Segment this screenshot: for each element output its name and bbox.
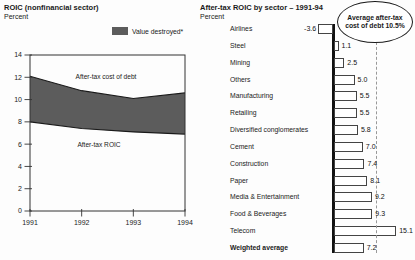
y-tick-label: 4	[18, 163, 22, 170]
y-tick-label: 14	[14, 51, 22, 58]
sector-label: Steel	[230, 42, 246, 49]
y-tick-label: 6	[18, 141, 22, 148]
bar-row: Mining2.5	[200, 58, 415, 69]
sector-bar	[334, 41, 339, 51]
bar-row: Media & Entertainment9.2	[200, 192, 415, 203]
bar-row: Cement7.0	[200, 142, 415, 153]
sector-bar	[334, 108, 357, 118]
x-tick-label: 1993	[126, 219, 142, 226]
y-tick-label: 10	[14, 96, 22, 103]
sector-value-label: 5.5	[360, 109, 370, 116]
sector-bar	[334, 243, 364, 253]
sector-label: Food & Beverages	[230, 210, 286, 217]
sector-bar	[334, 159, 364, 169]
bar-row: Diversified conglomerates5.8	[200, 125, 415, 136]
sector-value-label: 15.1	[399, 227, 413, 234]
sector-bar	[334, 91, 357, 101]
x-tick-label: 1991	[22, 219, 38, 226]
bar-row: Food & Beverages9.3	[200, 209, 415, 220]
sector-bar	[334, 226, 396, 236]
sector-bar	[334, 192, 372, 202]
value-destroyed-band	[30, 76, 185, 134]
sector-value-label: 5.0	[358, 76, 368, 83]
value-destroyed-legend: Value destroyed*	[112, 27, 183, 35]
sector-label: Media & Entertainment	[230, 193, 299, 200]
sector-label: Manufacturing	[230, 92, 273, 99]
sector-bar-rows: Airlines-3.6Steel1.1Mining2.5Others5.0Ma…	[200, 24, 415, 254]
sector-bar	[334, 75, 355, 85]
cost-of-debt-reference-line	[376, 42, 377, 253]
sector-label: Others	[230, 76, 250, 83]
right-chart-subtitle: Percent	[200, 13, 224, 20]
roic-series-label: After-tax ROIC	[77, 141, 120, 148]
sector-value-label: 2.5	[347, 59, 357, 66]
y-tick-label: 0	[18, 207, 22, 214]
sector-label: Mining	[230, 59, 250, 66]
sector-value-label: 7.2	[367, 244, 377, 251]
sector-label: Diversified conglomerates	[230, 126, 308, 133]
bar-row: Construction7.4	[200, 159, 415, 170]
right-chart-title: After-tax ROIC by sector – 1991-94	[200, 3, 323, 12]
sector-label: Telecom	[230, 227, 255, 234]
sector-label: Retailing	[230, 109, 256, 116]
sector-value-label: -3.6	[304, 25, 316, 32]
y-tick-label: 8	[18, 118, 22, 125]
sector-bar	[334, 176, 367, 186]
sector-value-label: 9.2	[375, 193, 385, 200]
sector-value-label: 9.3	[375, 210, 385, 217]
bar-row: Manufacturing5.5	[200, 91, 415, 102]
sector-label: Airlines	[230, 25, 252, 32]
sector-bar	[334, 209, 372, 219]
left-area-chart-svg: 024681012141991199219931994After-tax cos…	[0, 45, 200, 260]
cost-of-debt-series-label: After-tax cost of debt	[76, 73, 137, 80]
x-tick-label: 1994	[177, 219, 193, 226]
figure-canvas: ROIC (nonfinancial sector) Percent Value…	[0, 0, 415, 260]
sector-label: Construction	[230, 160, 268, 167]
sector-bar	[334, 58, 344, 68]
left-chart-title: ROIC (nonfinancial sector)	[4, 3, 99, 12]
x-tick-label: 1992	[74, 219, 90, 226]
bar-row: Telecom15.1	[200, 226, 415, 237]
sector-bar	[334, 142, 363, 152]
legend-swatch-icon	[112, 27, 128, 35]
sector-label: Weighted average	[230, 244, 288, 251]
bar-row: Paper8.1	[200, 176, 415, 187]
sector-value-label: 8.1	[370, 177, 380, 184]
bar-row: Weighted average7.2	[200, 243, 415, 254]
sector-label: Paper	[230, 177, 248, 184]
bar-row: Retailing5.5	[200, 108, 415, 119]
sector-bar	[318, 24, 333, 34]
sector-value-label: 7.4	[367, 160, 377, 167]
sector-value-label: 1.1	[342, 42, 352, 49]
y-tick-label: 2	[18, 185, 22, 192]
left-chart-subtitle: Percent	[4, 13, 28, 20]
sector-bar	[334, 125, 358, 135]
legend-label: Value destroyed*	[132, 28, 183, 35]
sector-value-label: 5.5	[360, 92, 370, 99]
sector-label: Cement	[230, 143, 254, 150]
sector-value-label: 5.8	[361, 126, 371, 133]
avg-cost-of-debt-callout: Average after-tax cost of debt 10.5%	[337, 1, 413, 43]
sector-value-label: 7.0	[366, 143, 376, 150]
bar-row: Others5.0	[200, 75, 415, 86]
y-tick-label: 12	[14, 74, 22, 81]
